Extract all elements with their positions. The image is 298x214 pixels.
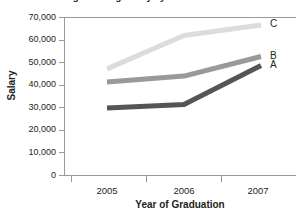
series-label-a: A bbox=[270, 60, 277, 70]
series-label-c: C bbox=[270, 19, 277, 29]
salary-line-chart: Average Starting Salary by Year of Gradu… bbox=[0, 0, 298, 214]
series-line-a bbox=[107, 66, 261, 109]
series-plot bbox=[0, 0, 298, 214]
